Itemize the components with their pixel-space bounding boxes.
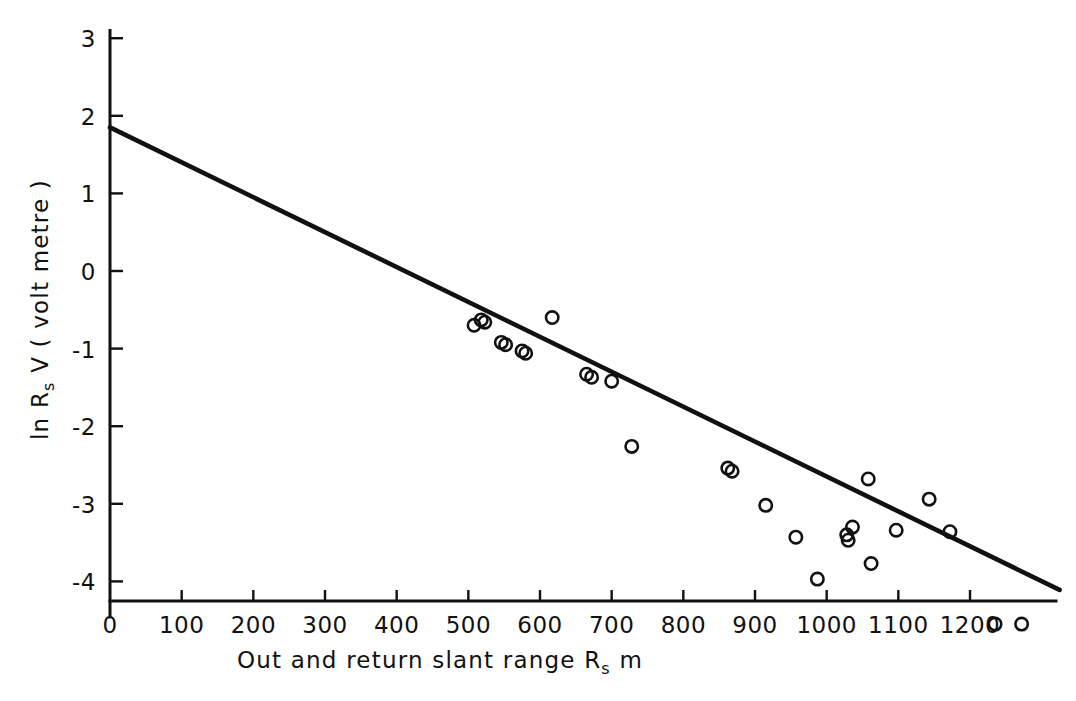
y-tick-label: 3 (81, 26, 96, 52)
y-title-symbol: R (27, 391, 53, 408)
data-point (790, 531, 802, 543)
y-title-subscript: s (39, 381, 58, 391)
y-tick-label: 0 (81, 259, 96, 285)
y-tick-label: -2 (72, 414, 96, 440)
x-tick-label: 1200 (940, 612, 1001, 638)
data-point (811, 573, 823, 585)
x-title-subscript: s (601, 659, 611, 678)
data-point (865, 557, 877, 569)
x-tick-label: 300 (302, 612, 347, 638)
x-title-symbol: R (584, 647, 601, 673)
data-point (519, 347, 531, 359)
svg-text:ln Rs V ( volt metre ): ln Rs V ( volt metre ) (27, 179, 58, 440)
regression-line (110, 127, 1060, 589)
y-tick-label: -3 (72, 492, 96, 518)
y-tick-label: -1 (72, 337, 96, 363)
y-title-unit: V ( volt metre ) (27, 179, 53, 381)
y-axis-ticks (110, 38, 123, 581)
x-tick-label: 400 (374, 612, 419, 638)
y-tick-label: -4 (72, 569, 96, 595)
x-tick-label: 200 (231, 612, 276, 638)
x-tick-label: 0 (102, 612, 117, 638)
x-title-unit: m (611, 647, 643, 673)
y-tick-label: 2 (81, 104, 96, 130)
x-tick-label: 500 (446, 612, 491, 638)
figure-container: 0100200300400500600700800900100011001200… (0, 0, 1076, 701)
x-tick-label: 700 (589, 612, 634, 638)
data-point (760, 499, 772, 511)
x-tick-label: 600 (517, 612, 562, 638)
x-tick-label: 1100 (868, 612, 929, 638)
data-point (862, 473, 874, 485)
x-axis-tick-labels: 0100200300400500600700800900100011001200 (102, 612, 1000, 638)
data-point (923, 493, 935, 505)
x-tick-label: 800 (661, 612, 706, 638)
x-axis-title: Out and return slant range Rs m (237, 647, 643, 678)
svg-text:Out and return slant range Rs: Out and return slant range Rs m (237, 647, 643, 678)
x-title-text: Out and return slant range (237, 647, 584, 673)
data-point (605, 375, 617, 387)
data-point (890, 524, 902, 536)
y-axis-tick-labels: 3210-1-2-3-4 (72, 26, 96, 595)
x-tick-label: 900 (732, 612, 777, 638)
data-point (499, 339, 511, 351)
x-tick-label: 1000 (796, 612, 857, 638)
scatter-chart: 0100200300400500600700800900100011001200… (0, 0, 1076, 701)
data-points-group (468, 311, 1028, 630)
axes-group (110, 30, 1056, 617)
y-axis-title: ln Rs V ( volt metre ) (27, 179, 58, 440)
y-tick-label: 1 (81, 181, 96, 207)
x-axis-ticks (182, 590, 970, 601)
y-title-prefix: ln (27, 408, 53, 440)
data-point (626, 440, 638, 452)
data-point (1015, 618, 1027, 630)
data-point (546, 311, 558, 323)
x-tick-label: 100 (159, 612, 204, 638)
